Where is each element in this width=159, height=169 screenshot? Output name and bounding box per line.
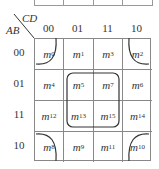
group-corner-m2 <box>129 38 149 64</box>
group-center-quad <box>67 73 119 127</box>
diagonal-divider <box>14 14 34 38</box>
group-corner-m10 <box>129 134 149 161</box>
grouping-overlay <box>0 0 159 169</box>
group-corner-m8 <box>36 134 56 161</box>
group-corner-m0 <box>36 38 56 64</box>
